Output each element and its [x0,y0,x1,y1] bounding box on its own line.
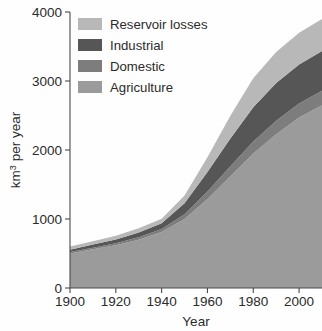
y-axis-title: km3 per year [8,111,23,188]
x-tick-label: 2000 [284,294,314,309]
x-axis-title: Year [182,314,210,329]
legend-label: Domestic [110,59,165,74]
y-tick-label: 1000 [32,212,62,227]
x-tick-label: 1940 [147,294,177,309]
x-axis-tick-labels: 190019201940196019802000 [55,294,314,309]
y-axis-title-rest: per year [8,111,23,165]
y-tick-label: 4000 [32,5,62,20]
y-axis-title-base: km [8,170,23,188]
x-tick-label: 1960 [192,294,222,309]
x-axis-ticks [70,288,299,293]
y-axis-tick-labels: 01000200030004000 [32,5,62,296]
chart-legend: Reservoir lossesIndustrialDomesticAgricu… [78,17,208,95]
legend-swatch [78,18,102,30]
chart-areas [70,19,322,288]
x-tick-label: 1900 [55,294,85,309]
svg-text:km3 per year: km3 per year [8,111,23,188]
x-tick-label: 1980 [238,294,268,309]
y-tick-label: 2000 [32,143,62,158]
stacked-area-chart: 01000200030004000 1900192019401960198020… [0,0,322,331]
y-axis-ticks [65,12,70,288]
legend-label: Reservoir losses [110,17,208,32]
chart-figure: 01000200030004000 1900192019401960198020… [0,0,322,331]
legend-label: Agriculture [110,80,173,95]
legend-label: Industrial [110,38,164,53]
x-tick-label: 1920 [101,294,131,309]
legend-swatch [78,60,102,72]
legend-swatch [78,39,102,51]
y-tick-label: 3000 [32,74,62,89]
legend-swatch [78,81,102,93]
